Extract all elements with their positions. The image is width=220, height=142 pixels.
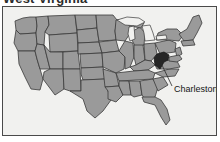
state-colorado	[63, 51, 80, 69]
state-nebraska	[78, 42, 102, 54]
state-massachusetts	[181, 40, 195, 46]
state-wyoming	[49, 33, 78, 52]
city-label-charleston: Charleston	[174, 84, 217, 94]
state-minnesota	[96, 15, 117, 41]
united-states-map-svg	[3, 7, 216, 135]
state-washington	[15, 17, 37, 34]
lake-ontario	[156, 35, 167, 40]
state-kansas	[80, 53, 103, 68]
map-frame: Charleston	[2, 6, 217, 136]
state-south-dakota	[77, 28, 99, 43]
map-figure: West Virginia	[0, 0, 220, 142]
state-north-dakota	[75, 15, 97, 30]
state-montana	[45, 15, 77, 35]
lake-michigan	[128, 26, 135, 41]
state-oklahoma	[81, 67, 105, 80]
state-new-mexico	[63, 69, 81, 91]
